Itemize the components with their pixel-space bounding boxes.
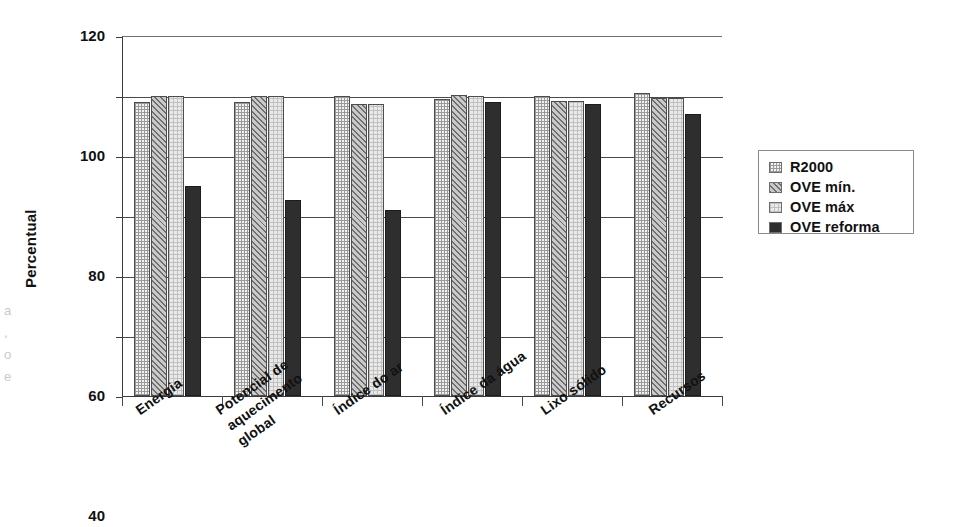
- bar: [568, 101, 584, 397]
- legend-swatch-icon: [769, 162, 782, 173]
- legend-label: OVE reforma: [790, 219, 880, 235]
- bar: [634, 93, 650, 396]
- bar: [468, 96, 484, 396]
- bar: [334, 96, 350, 396]
- y-tick-label-80: 80: [88, 267, 105, 284]
- bar: [485, 102, 501, 396]
- bar: [151, 96, 167, 396]
- y-tick-100: 100: [116, 97, 123, 98]
- legend-item-2[interactable]: OVE mín.: [769, 177, 913, 197]
- plot-area: 020406080100120: [122, 36, 722, 396]
- legend-label: OVE máx: [790, 199, 854, 215]
- bar: [185, 186, 201, 396]
- legend-swatch-icon: [769, 202, 782, 213]
- bar: [451, 95, 467, 397]
- y-tick-label-60: 60: [88, 387, 105, 404]
- y-axis-title-text: Percentual: [22, 128, 39, 288]
- bar: [168, 96, 184, 396]
- legend-item-4[interactable]: OVE reforma: [769, 217, 913, 237]
- margin-artifact: ,: [4, 322, 11, 344]
- bar: [685, 114, 701, 396]
- x-tick: [422, 396, 423, 406]
- y-tick-120: 120: [116, 37, 123, 38]
- bar: [268, 96, 284, 396]
- x-tick: [722, 396, 723, 406]
- x-tick: [122, 396, 123, 406]
- bar: [251, 96, 267, 396]
- y-tick-20: 20: [116, 337, 123, 338]
- legend-swatch-icon: [769, 222, 782, 233]
- x-tick: [622, 396, 623, 406]
- legend-swatch-icon: [769, 182, 782, 193]
- margin-artifact: a: [4, 300, 11, 322]
- bar: [368, 104, 384, 397]
- page-margin-artifacts: a,oe: [4, 300, 11, 388]
- legend-label: R2000: [790, 159, 833, 175]
- bar: [134, 102, 150, 396]
- margin-artifact: o: [4, 344, 11, 366]
- bar: [534, 96, 550, 396]
- legend-item-1[interactable]: R2000: [769, 157, 913, 177]
- y-tick-80: 80: [116, 157, 123, 158]
- bar: [351, 104, 367, 397]
- legend-label: OVE mín.: [790, 179, 855, 195]
- bar: [234, 102, 250, 396]
- y-axis-title: Percentual: [22, 0, 42, 150]
- y-tick-label-100: 100: [80, 147, 105, 164]
- bar: [551, 101, 567, 397]
- legend: R2000OVE mín.OVE máxOVE reforma: [758, 150, 914, 234]
- bar: [651, 98, 667, 397]
- bar: [585, 104, 601, 397]
- y-tick-label-120: 120: [80, 27, 105, 44]
- bar: [434, 99, 450, 396]
- x-tick: [322, 396, 323, 406]
- y-tick-40: 40: [116, 277, 123, 278]
- bar: [668, 98, 684, 397]
- chart-figure: a,oe Percentual 020406080100120 EnergiaP…: [0, 0, 961, 527]
- y-tick-label-40: 40: [88, 507, 105, 524]
- margin-artifact: e: [4, 366, 11, 388]
- x-tick: [522, 396, 523, 406]
- y-tick-60: 60: [116, 217, 123, 218]
- legend-item-3[interactable]: OVE máx: [769, 197, 913, 217]
